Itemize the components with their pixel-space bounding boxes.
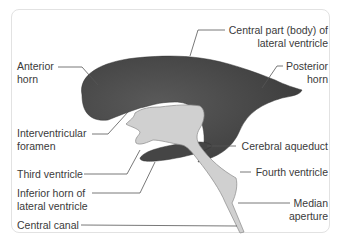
label-posterior-horn: Posterior horn — [286, 60, 328, 86]
leader-third-ventricle — [84, 150, 140, 174]
leader-central-canal — [81, 225, 237, 226]
label-interventricular-foramen: Interventricular foramen — [17, 127, 86, 153]
leader-inferior-horn — [92, 162, 155, 193]
label-fourth-ventricle: Fourth ventricle — [256, 166, 328, 179]
label-cerebral-aqueduct: Cerebral aqueduct — [242, 140, 328, 153]
label-central-part: Central part (body) of lateral ventricle — [229, 24, 328, 50]
label-median-aperture: Median aperture — [289, 197, 328, 223]
label-central-canal: Central canal — [17, 219, 79, 232]
label-third-ventricle: Third ventricle — [17, 168, 83, 181]
leader-central-part — [190, 30, 225, 56]
label-inferior-horn: Inferior horn of lateral ventricle — [17, 187, 88, 213]
label-anterior-horn: Anterior horn — [17, 60, 54, 86]
